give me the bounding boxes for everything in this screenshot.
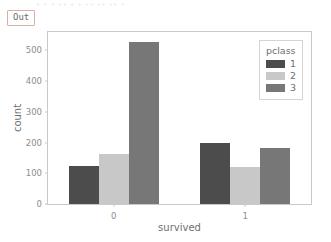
bar[interactable]	[260, 148, 290, 204]
bar[interactable]	[200, 143, 230, 204]
legend-swatch-2	[266, 72, 285, 80]
chart-legend: pclass 1 2 3	[259, 40, 303, 100]
y-axis-label-text: count	[12, 31, 24, 205]
legend-title: pclass	[266, 45, 296, 56]
x-axis-tick-mark	[245, 204, 246, 207]
bar[interactable]	[230, 167, 260, 204]
legend-label-1: 1	[290, 58, 296, 69]
plot-axes: 010020030040050001 pclass 1 2 3	[47, 31, 312, 205]
x-axis-label: survived	[47, 222, 312, 233]
legend-label-3: 3	[290, 82, 296, 93]
legend-swatch-1	[266, 60, 285, 68]
legend-item: 3	[266, 82, 296, 93]
chart-figure: 010020030040050001 pclass 1 2 3 count su…	[0, 0, 331, 242]
legend-swatch-3	[266, 84, 285, 92]
x-axis-tick-mark	[113, 204, 114, 207]
y-axis-label: count	[12, 31, 24, 205]
legend-item: 1	[266, 58, 296, 69]
legend-item: 2	[266, 70, 296, 81]
legend-label-2: 2	[290, 70, 296, 81]
